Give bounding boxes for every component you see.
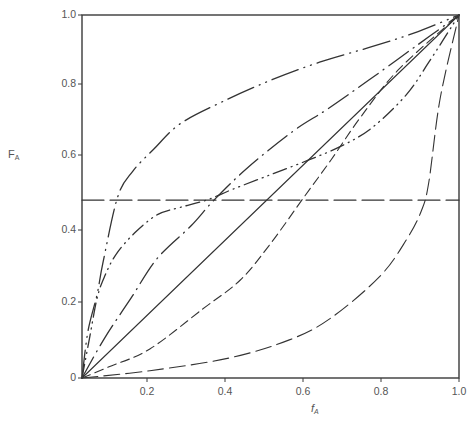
y-axis-label-main: F (8, 148, 15, 160)
series-layer (82, 15, 459, 378)
x-tick-label: 0.2 (132, 385, 162, 397)
x-axis-label-sub: A (314, 408, 319, 415)
x-tick-label: 0.8 (366, 385, 396, 397)
y-tick-label: 0.2 (46, 295, 76, 307)
series-line-0 (82, 15, 459, 378)
y-axis-label-sub: A (15, 154, 20, 161)
y-tick-label: 0.8 (46, 77, 76, 89)
x-tick-label: 0.6 (288, 385, 318, 397)
x-tick-label: 1.0 (444, 385, 474, 397)
copolymer-composition-chart (0, 0, 476, 424)
y-axis-label: FA (8, 148, 19, 161)
y-tick-label: 1.0 (46, 8, 76, 20)
y-tick-label: 0.4 (46, 223, 76, 235)
y-tick-label: 0 (46, 371, 76, 383)
x-axis-label: fA (311, 402, 319, 415)
x-tick-label: 0.4 (210, 385, 240, 397)
y-tick-label: 0.6 (46, 148, 76, 160)
